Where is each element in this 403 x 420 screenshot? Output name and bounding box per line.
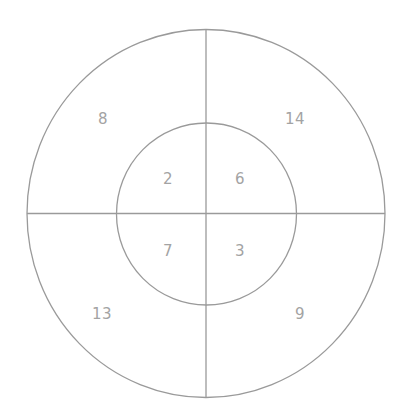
sector-label-inner-top-right: 6 bbox=[235, 170, 245, 188]
diagram-background bbox=[0, 0, 403, 420]
sector-label-outer-top-left: 8 bbox=[98, 110, 108, 128]
venn-quadrant-diagram: 2 6 7 3 8 14 13 9 bbox=[0, 0, 403, 420]
diagram-canvas: 2 6 7 3 8 14 13 9 bbox=[0, 0, 403, 420]
sector-label-outer-bottom-left: 13 bbox=[92, 305, 112, 323]
sector-label-outer-top-right: 14 bbox=[285, 110, 305, 128]
sector-label-inner-top-left: 2 bbox=[163, 170, 173, 188]
sector-label-inner-bottom-right: 3 bbox=[235, 242, 245, 260]
sector-label-inner-bottom-left: 7 bbox=[163, 242, 173, 260]
sector-label-outer-bottom-right: 9 bbox=[295, 305, 305, 323]
